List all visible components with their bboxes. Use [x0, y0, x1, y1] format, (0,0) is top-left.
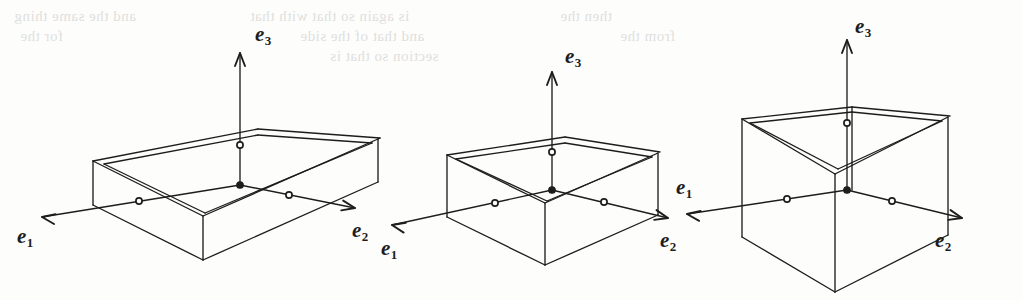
label-subscript: 1: [391, 247, 398, 262]
axis-e1-arrowhead: [41, 212, 55, 224]
label-subscript: 3: [265, 33, 272, 48]
box-flat-group: [93, 129, 380, 260]
box-flat-label-e1: e1: [17, 224, 33, 251]
unit-marker-e2: [601, 199, 607, 205]
unit-marker-e3: [844, 120, 850, 126]
label-base: e: [935, 228, 944, 252]
box-medium-label-e1: e1: [381, 236, 397, 263]
box-cube-axes: [686, 40, 963, 223]
label-subscript: 2: [362, 229, 369, 244]
box-cube-label-e2: e2: [935, 228, 951, 255]
unit-marker-e2: [889, 198, 895, 204]
label-subscript: 1: [27, 235, 34, 250]
origin-dot: [549, 187, 556, 194]
label-base: e: [381, 236, 390, 260]
line-art: [0, 0, 1022, 300]
box-medium-label-e2: e2: [660, 228, 676, 255]
label-subscript: 2: [945, 239, 952, 254]
unit-marker-e2: [286, 192, 292, 198]
box-medium-label-e3: e3: [565, 44, 581, 71]
label-subscript: 2: [670, 239, 677, 254]
origin-dot: [237, 182, 244, 189]
label-base: e: [565, 44, 574, 68]
label-base: e: [855, 14, 864, 38]
axis-e2-line: [240, 185, 355, 208]
box-flat-label-e2: e2: [352, 218, 368, 245]
label-base: e: [660, 228, 669, 252]
box-flat-bottom-edges: [93, 182, 378, 260]
unit-marker-e1: [136, 198, 142, 204]
label-base: e: [352, 218, 361, 242]
box-cube-bottom-edges: [742, 235, 948, 292]
unit-marker-e3: [549, 149, 555, 155]
unit-marker-e1: [492, 200, 498, 206]
label-subscript: 3: [865, 25, 872, 40]
origin-dot: [844, 187, 851, 194]
label-base: e: [676, 175, 685, 199]
label-base: e: [255, 22, 264, 46]
box-medium-axes: [391, 72, 669, 233]
axis-e2-line: [847, 190, 962, 218]
axis-e1-line: [392, 190, 552, 225]
label-subscript: 1: [686, 186, 693, 201]
figure-three-boxes-coordinate-frames: and the same thing is again so that with…: [0, 0, 1022, 300]
box-medium-markers: [492, 149, 607, 206]
box-flat-label-e3: e3: [255, 22, 271, 49]
axis-e1-line: [687, 190, 847, 214]
box-cube-label-e1: e1: [676, 175, 692, 202]
box-cube-label-e3: e3: [855, 14, 871, 41]
axis-e1-arrowhead: [686, 209, 700, 221]
label-subscript: 3: [575, 55, 582, 70]
unit-marker-e1: [784, 196, 790, 202]
box-medium-bottom-edges: [447, 215, 658, 265]
box-cube-group: [742, 107, 950, 292]
unit-marker-e3: [237, 142, 243, 148]
axis-e2-line: [552, 190, 668, 218]
box-medium-group: [447, 137, 660, 265]
label-base: e: [17, 224, 26, 248]
